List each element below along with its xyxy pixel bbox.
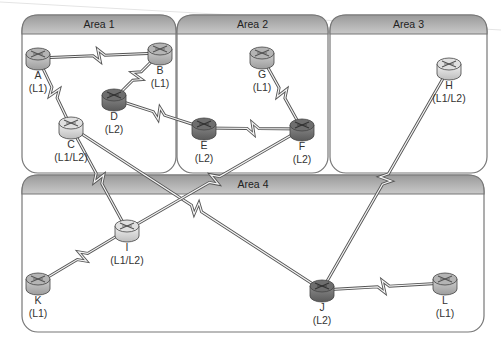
area-title: Area 2 bbox=[237, 18, 268, 30]
router-icon bbox=[192, 118, 216, 140]
router-icon bbox=[26, 48, 50, 70]
router-level: (L2) bbox=[195, 152, 214, 164]
router-icon bbox=[250, 47, 274, 69]
router-level: (L2) bbox=[313, 314, 332, 326]
router-name: E bbox=[200, 139, 207, 151]
router-level: (L1) bbox=[29, 82, 48, 94]
router-icon bbox=[59, 117, 83, 139]
router-icon bbox=[115, 220, 139, 242]
area-title: Area 1 bbox=[84, 18, 115, 30]
router-level: (L1) bbox=[29, 307, 48, 319]
router-icon bbox=[148, 43, 172, 65]
area-area1: Area 1 bbox=[22, 15, 176, 173]
router-icon bbox=[433, 273, 457, 295]
router-name: C bbox=[67, 138, 75, 150]
router-icon bbox=[290, 119, 314, 141]
router-level: (L1) bbox=[151, 77, 170, 89]
router-icon bbox=[102, 89, 126, 111]
router-name: I bbox=[126, 241, 129, 253]
router-name: K bbox=[34, 294, 41, 306]
area-title: Area 4 bbox=[238, 178, 269, 190]
router-icon bbox=[26, 273, 50, 295]
router-level: (L2) bbox=[105, 123, 124, 135]
router-level: (L1/L2) bbox=[432, 92, 465, 104]
router-name: L bbox=[442, 294, 448, 306]
router-name: A bbox=[34, 69, 41, 81]
router-level: (L2) bbox=[293, 153, 312, 165]
router-icon bbox=[437, 58, 461, 80]
router-icon bbox=[310, 280, 334, 302]
router-name: J bbox=[319, 301, 324, 313]
area-area4: Area 4 bbox=[22, 175, 484, 332]
router-level: (L1/L2) bbox=[54, 151, 87, 163]
router-level: (L1) bbox=[253, 81, 272, 93]
area-title: Area 3 bbox=[393, 18, 424, 30]
router-name: D bbox=[110, 110, 118, 122]
router-level: (L1) bbox=[436, 307, 455, 319]
router-level: (L1/L2) bbox=[110, 254, 143, 266]
router-name: H bbox=[445, 79, 453, 91]
router-name: F bbox=[299, 140, 305, 152]
router-name: G bbox=[258, 68, 266, 80]
network-diagram: Area 1Area 2Area 3Area 4 A(L1)B(L1)C(L1/… bbox=[0, 0, 501, 348]
router-name: B bbox=[156, 64, 163, 76]
